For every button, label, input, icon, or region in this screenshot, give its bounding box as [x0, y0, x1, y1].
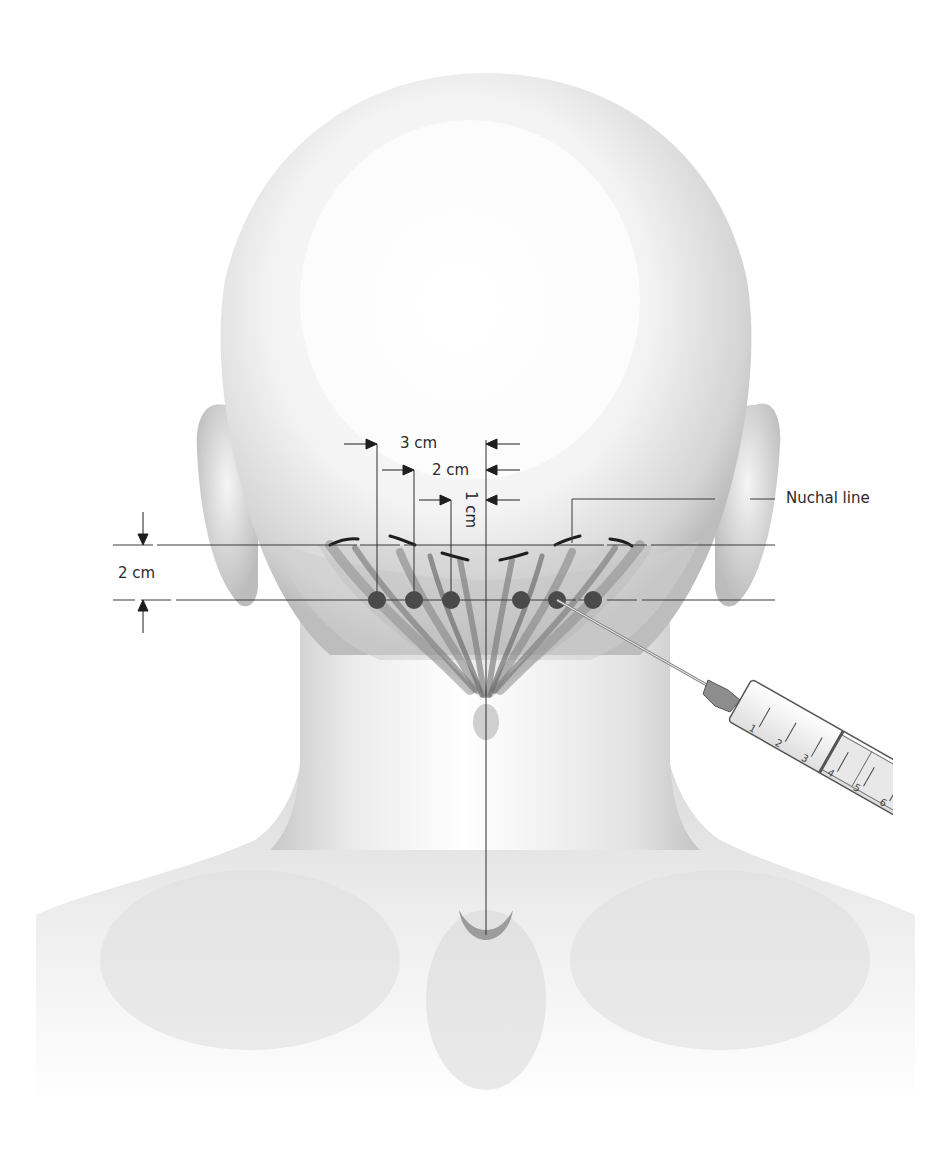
injection-point-right-1cm [512, 591, 530, 609]
label-vertical-2cm: 2 cm [118, 566, 155, 581]
injection-point-right-3cm [584, 591, 602, 609]
label-nuchal-line: Nuchal line [786, 491, 870, 506]
nuchal-injection-diagram: 1 2 3 4 5 6 3 cm 2 cm 1 cm 2 cm Nuchal l… [0, 0, 951, 1158]
injection-point-left-2cm [405, 591, 423, 609]
injection-point-left-3cm [368, 591, 386, 609]
injection-point-left-1cm [442, 591, 460, 609]
label-3cm: 3 cm [400, 436, 437, 451]
label-1cm: 1 cm [463, 491, 478, 528]
label-2cm: 2 cm [432, 463, 469, 478]
